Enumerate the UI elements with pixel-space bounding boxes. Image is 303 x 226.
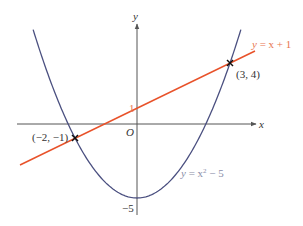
point-label-b: (3, 4) — [236, 68, 260, 81]
intersection-marker-b — [227, 60, 233, 66]
origin-label: O — [126, 126, 134, 138]
y-tick-minus5: −5 — [122, 202, 134, 214]
parabola-equation-label: y = x2 − 5 — [180, 167, 224, 179]
y-tick-1: 1 — [129, 102, 135, 114]
x-axis-label: x — [258, 118, 264, 130]
y-axis-label: y — [132, 10, 138, 22]
graph-canvas: y x O 1 −5 (−2, −1) (3, 4) y = x + 1 y =… — [0, 0, 303, 226]
point-label-a: (−2, −1) — [32, 131, 69, 144]
line-equation-label: y = x + 1 — [251, 38, 291, 50]
